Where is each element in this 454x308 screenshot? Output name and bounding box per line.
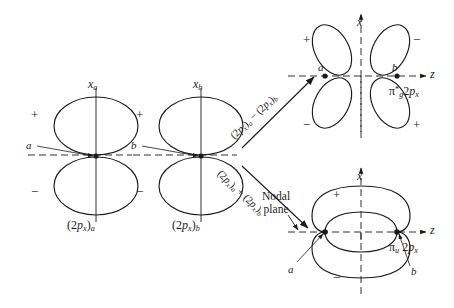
antibonding-z-axis-label: z (430, 68, 435, 80)
atomic-orbital-a-graphic (28, 88, 138, 222)
bonding-nucleus-b (394, 229, 400, 235)
atomic-a-nucleus (93, 153, 98, 158)
bonding-nucleus-b-label: b (411, 266, 417, 277)
atomic-a-axis-label: xa (88, 78, 97, 92)
antibonding-lobe-bottom-right (362, 71, 417, 135)
antibonding-nucleus-a (322, 73, 327, 78)
antibonding-sign-bottom-left: − (303, 118, 310, 131)
bonding-nucleus-a-label: a (288, 264, 294, 275)
antibonding-sign-top-left: + (303, 33, 310, 46)
atomic-b-axis-label: xb (193, 78, 202, 92)
bonding-z-axis-label: z (430, 224, 435, 236)
bonding-sign-top: + (333, 188, 340, 201)
atomic-b-center-label: b (131, 140, 137, 151)
atomic-a-leader-line (37, 146, 93, 156)
nodal-plane-line1: Nodal (262, 190, 290, 203)
atomic-a-sign-bottom: − (31, 185, 38, 198)
antibonding-lobe-top-right (362, 18, 417, 82)
diagram-canvas (0, 0, 454, 308)
bonding-sign-bottom: − (333, 271, 340, 284)
antibonding-x-axis-label: x (357, 16, 362, 28)
atomic-b-orbital-name: (2px)b (172, 219, 200, 233)
atomic-orbital-b-graphic (133, 88, 243, 222)
atomic-a-orbital-name: (2px)a (67, 219, 95, 233)
antibonding-nucleus-a-label: a (318, 62, 324, 73)
nodal-plane-annotation: Nodal plane (262, 190, 290, 216)
bonding-orbital-name: πu 2px (389, 241, 418, 255)
antibonding-lobe-bottom-left (304, 71, 359, 135)
atomic-b-nucleus (198, 153, 203, 158)
atomic-a-sign-top: + (31, 108, 38, 121)
antibonding-sign-top-right: − (413, 33, 420, 46)
antibonding-orbital-name: π*g2px (389, 85, 419, 99)
atomic-b-sign-bottom: − (136, 185, 143, 198)
bonding-nucleus-a (322, 229, 328, 235)
molecular-orbital-diagram: xa + − a (2px)a xb + − b (2px)b (2px)a −… (0, 0, 454, 308)
atomic-a-center-label: a (26, 140, 32, 151)
antibonding-nucleus-b (394, 73, 399, 78)
nodal-plane-line2: plane (262, 203, 290, 216)
atomic-b-leader-line (142, 146, 198, 156)
antibonding-lobe-top-left (304, 18, 359, 82)
bonding-leader-a (297, 234, 323, 262)
atomic-b-sign-top: + (136, 108, 143, 121)
bonding-orbital-graphic (288, 168, 426, 296)
antibonding-nucleus-b-label: b (392, 62, 398, 73)
antibonding-sign-bottom-right: + (413, 118, 420, 131)
bonding-x-axis-label: x (357, 170, 362, 182)
